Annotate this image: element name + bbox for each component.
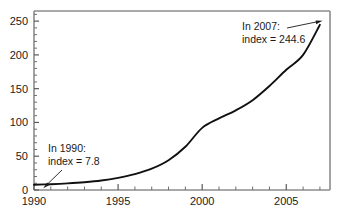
x-tick-label-1995: 1995 <box>106 195 130 207</box>
annotation-2007-line2: index = 244.6 <box>242 33 306 45</box>
chart-figure: 050100150200250 1990199520002005 In 1990… <box>0 0 342 222</box>
x-tick-label-1990: 1990 <box>22 195 46 207</box>
annotation-1990-line2: index = 7.8 <box>48 155 100 167</box>
y-tick-label-200: 200 <box>10 49 28 61</box>
annotation-2007-line1: In 2007: <box>242 20 280 32</box>
x-tick-label-2000: 2000 <box>190 195 214 207</box>
annotation-1990-line1: In 1990: <box>48 142 86 154</box>
y-tick-label-100: 100 <box>10 116 28 128</box>
x-tick-label-2005: 2005 <box>274 195 298 207</box>
y-tick-label-50: 50 <box>16 150 28 162</box>
y-tick-label-150: 150 <box>10 83 28 95</box>
line-chart: 050100150200250 1990199520002005 In 1990… <box>0 0 342 222</box>
y-tick-label-250: 250 <box>10 15 28 27</box>
